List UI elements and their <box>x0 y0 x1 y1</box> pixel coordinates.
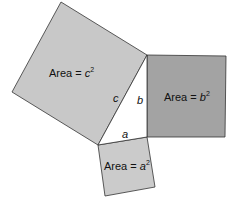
side-b-label: b <box>137 94 143 106</box>
square-c-label: Area = c2 <box>49 66 94 79</box>
square-b-label: Area = b2 <box>164 90 210 103</box>
side-a-label: a <box>122 128 128 140</box>
side-c-label: c <box>113 92 119 104</box>
square-a-label: Area = a2 <box>104 159 150 172</box>
pythagorean-diagram: Area = c2 Area = b2 Area = a2 c b a <box>0 0 241 205</box>
